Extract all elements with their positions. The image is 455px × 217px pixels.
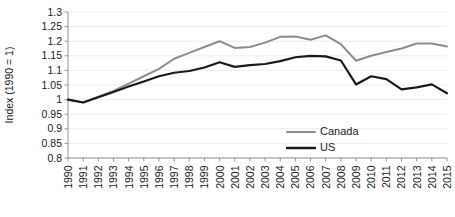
y-tick-label: 1.15 (42, 49, 63, 61)
y-tick-label: 0.8 (47, 152, 62, 164)
y-tick-label: 1.2 (47, 35, 62, 47)
x-tick-label: 2003 (259, 165, 271, 189)
x-tick-label: 1998 (183, 165, 195, 189)
x-tick-label: 1992 (92, 165, 104, 189)
x-tick-label: 2007 (320, 165, 332, 189)
x-tick-label: 2004 (274, 165, 286, 189)
x-tick-label: 1996 (153, 165, 165, 189)
x-tick-label: 2001 (229, 165, 241, 189)
x-tick-label: 1997 (168, 165, 180, 189)
y-tick-label: 0.95 (42, 108, 63, 120)
x-tick-label: 1990 (62, 165, 74, 189)
y-axis-title: Index (1990 = 1) (3, 47, 15, 124)
y-tick-label: 1 (56, 93, 62, 105)
x-tick-label: 2000 (214, 165, 226, 189)
series-line-canada (68, 35, 447, 102)
x-tick-label: 2011 (380, 165, 392, 188)
series-line-us (68, 56, 447, 103)
y-tick-label: 0.85 (42, 137, 63, 149)
x-tick-label: 2008 (335, 165, 347, 189)
x-tick-label: 2013 (411, 165, 423, 189)
x-tick-label: 1995 (138, 165, 150, 189)
y-tick-label: 1.05 (42, 79, 63, 91)
x-tick-label: 2010 (365, 165, 377, 189)
legend-label-canada: Canada (320, 125, 359, 137)
x-tick-label: 2009 (350, 165, 362, 189)
y-tick-label: 0.9 (47, 122, 62, 134)
x-tick-label: 2015 (441, 165, 453, 189)
y-tick-label: 1.3 (47, 6, 62, 18)
x-tick-label: 1993 (107, 165, 119, 189)
x-tick-label: 2002 (244, 165, 256, 189)
y-tick-label: 1.1 (47, 64, 62, 76)
x-tick-label: 2012 (395, 165, 407, 189)
x-tick-label: 2006 (304, 165, 316, 189)
y-tick-label: 1.25 (42, 20, 63, 32)
line-chart: 0.80.850.90.9511.051.11.151.21.251.31990… (0, 0, 455, 217)
x-tick-label: 2014 (426, 165, 438, 189)
legend-label-us: US (320, 141, 335, 153)
x-tick-label: 1999 (198, 165, 210, 189)
x-tick-label: 1991 (77, 165, 89, 189)
chart-canvas: 0.80.850.90.9511.051.11.151.21.251.31990… (0, 0, 455, 217)
x-tick-label: 1994 (123, 165, 135, 189)
x-tick-label: 2005 (289, 165, 301, 189)
